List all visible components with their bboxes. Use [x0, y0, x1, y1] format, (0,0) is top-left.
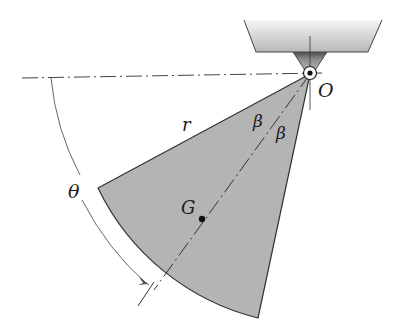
sector-pendulum-diagram: O r β β G θ	[0, 0, 398, 329]
ceiling-support	[244, 20, 382, 52]
center-of-mass-dot	[199, 216, 205, 222]
label-center-of-mass-G: G	[181, 197, 195, 218]
label-radius-r: r	[182, 114, 192, 135]
horizontal-reference-line	[22, 73, 322, 78]
label-theta: θ	[68, 180, 80, 202]
centerline-tail	[138, 282, 154, 306]
label-beta-right: β	[275, 123, 286, 143]
label-pivot-O: O	[318, 79, 334, 101]
pivot-pin	[304, 67, 317, 80]
label-beta-left: β	[252, 111, 263, 131]
sector-body	[98, 74, 310, 318]
